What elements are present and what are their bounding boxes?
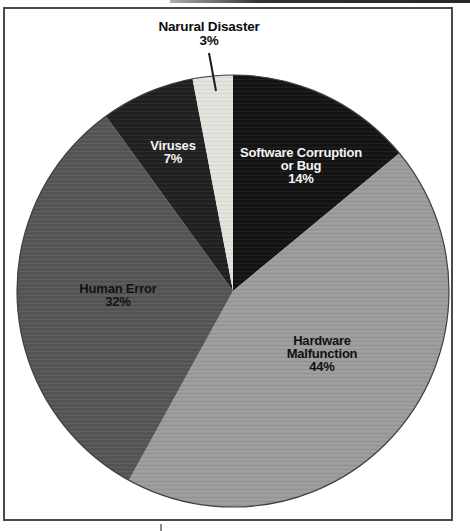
label-human-error: Human Error 32% [79, 282, 156, 308]
label-software-pct: 14% [240, 172, 362, 185]
label-natural-disaster: Narural Disaster 3% [158, 20, 259, 47]
label-hardware-malfunction: Hardware Malfunction 44% [287, 334, 358, 373]
label-natural-disaster-pct: 3% [158, 34, 259, 48]
label-human-error-pct: 32% [79, 295, 156, 308]
label-viruses: Viruses 7% [150, 139, 195, 165]
pie-chart [0, 0, 470, 531]
label-hardware-pct: 44% [287, 360, 358, 373]
label-software-corruption: Software Corruption or Bug 14% [240, 146, 362, 185]
scan-artifact-bottom-tick [160, 524, 162, 531]
label-natural-disaster-name: Narural Disaster [158, 20, 259, 34]
label-viruses-pct: 7% [150, 152, 195, 165]
pie-overlays [17, 53, 449, 507]
figure-canvas: Narural Disaster 3% Viruses 7% Software … [0, 0, 470, 531]
